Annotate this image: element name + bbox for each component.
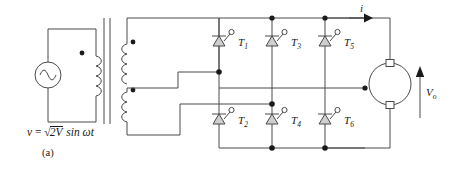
- thyristor-t6[interactable]: [318, 107, 340, 124]
- phase-c-rise: [180, 104, 272, 135]
- transformer-secondary-winding-a: [122, 44, 127, 84]
- thyristor-t1-gate-lead: [224, 34, 230, 41]
- thyristor-t5[interactable]: [318, 29, 340, 46]
- thyristor-t6-triangle: [319, 114, 331, 124]
- thyristor-t2-gate-lead: [224, 112, 230, 119]
- transformer-core: [104, 18, 110, 124]
- thyristor-t5-triangle: [319, 36, 331, 46]
- thyristor-t1[interactable]: [212, 29, 234, 46]
- thyristor-t3-label: T3: [291, 36, 301, 51]
- node-bottom-c: [322, 145, 328, 151]
- node-phase-b-right: [362, 85, 367, 90]
- source-equation: v = √2V sin ωt: [27, 126, 94, 139]
- thyristor-t5-gate-terminal[interactable]: [335, 29, 340, 34]
- figure-canvas: T1 T3 T5 T2 T4 T6 i Vo: [0, 0, 455, 178]
- motor-brush-top: [386, 60, 394, 67]
- phase-a-lead: [127, 18, 219, 44]
- phase-b-lead: [127, 72, 219, 88]
- transformer-primary-winding: [96, 56, 101, 103]
- thyristor-t5-gate-lead: [330, 34, 336, 41]
- figure-caption: (a): [42, 148, 54, 159]
- thyristor-t1-triangle: [213, 36, 225, 46]
- thyristor-t3-triangle: [266, 36, 278, 46]
- equation-rhs: sin ωt: [63, 126, 94, 138]
- equation-equals: =: [32, 126, 44, 138]
- primary-polarity-dot: [80, 51, 85, 56]
- output-voltage-label: Vo: [426, 86, 437, 101]
- thyristor-t2[interactable]: [212, 107, 234, 124]
- phase-c-lead: [127, 122, 180, 135]
- thyristor-t4-gate-terminal[interactable]: [282, 107, 287, 112]
- dc-motor-body: [369, 63, 411, 105]
- thyristor-t6-label: T6: [344, 114, 354, 129]
- node-top-c: [322, 15, 327, 20]
- thyristor-t5-label: T5: [344, 36, 354, 51]
- ac-source-sine-icon: [40, 70, 56, 80]
- thyristor-t1-label: T1: [238, 36, 248, 51]
- node-phase-c: [269, 101, 275, 107]
- thyristor-t2-label: T2: [238, 114, 248, 129]
- node-phase-a: [216, 69, 222, 75]
- thyristor-t6-gate-lead: [330, 112, 336, 119]
- circuit-diagram: T1 T3 T5 T2 T4 T6 i Vo: [0, 0, 455, 178]
- equation-radicand: 2V: [50, 126, 64, 139]
- output-labels: i Vo: [360, 2, 437, 101]
- thyristor-t3-gate-lead: [277, 34, 283, 41]
- thyristor-t3[interactable]: [265, 29, 287, 46]
- thyristor-t6-gate-terminal[interactable]: [335, 107, 340, 112]
- thyristor-t2-gate-terminal[interactable]: [229, 107, 234, 112]
- node-bottom-b: [269, 145, 275, 151]
- output-top-lead: [325, 18, 390, 60]
- thyristor-t4-label: T4: [291, 114, 301, 129]
- thyristor-t4-gate-lead: [277, 112, 283, 119]
- current-arrow-head: [364, 14, 373, 23]
- transformer-secondary-winding-b: [122, 92, 127, 122]
- thyristor-t4[interactable]: [265, 107, 287, 124]
- node-top-b: [269, 15, 274, 20]
- motor-brush-bottom: [386, 102, 394, 109]
- secondary-polarity-dot-a: [131, 40, 136, 45]
- primary-circuit: [35, 29, 101, 122]
- voltage-arrow-head: [416, 66, 424, 77]
- thyristor-t4-triangle: [266, 114, 278, 124]
- thyristor-t3-gate-terminal[interactable]: [282, 29, 287, 34]
- thyristor-t1-gate-terminal[interactable]: [229, 29, 234, 34]
- thyristor-t2-triangle: [213, 114, 225, 124]
- output-current-label: i: [360, 2, 363, 14]
- thyristor-labels: T1 T3 T5 T2 T4 T6: [238, 36, 354, 129]
